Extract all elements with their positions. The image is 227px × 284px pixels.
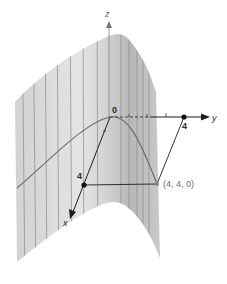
y-axis-label: y (211, 113, 217, 123)
surface-diagram: z y x 0 4 4 (4, 4, 0) (0, 0, 227, 284)
origin-label: 0 (112, 105, 117, 115)
point-corner (155, 182, 159, 186)
corner-point-label: (4, 4, 0) (163, 179, 194, 189)
point-x-4 (81, 182, 86, 187)
point-y-4 (181, 114, 186, 119)
y-point-label: 4 (182, 121, 187, 131)
surface (15, 0, 160, 284)
x-axis-label: x (62, 218, 68, 228)
z-axis-label: z (104, 9, 110, 19)
x-point-label: 4 (77, 171, 82, 181)
